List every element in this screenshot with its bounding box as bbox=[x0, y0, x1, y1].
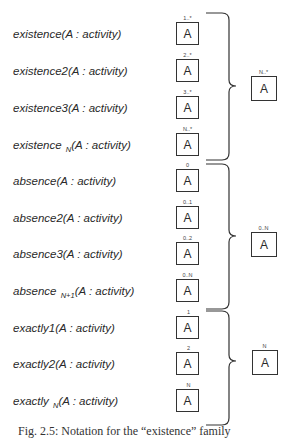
activity-box-absenceN1: A bbox=[176, 279, 199, 302]
cardinality-exactly1: 1 bbox=[176, 309, 201, 315]
cardinality-existenceN: N..* bbox=[175, 126, 200, 132]
cardinality-exactly-family: N bbox=[252, 343, 277, 349]
cardinality-existence2: 2..* bbox=[175, 52, 200, 58]
group-box-absence-family: A bbox=[251, 232, 277, 257]
activity-box-absence3: A bbox=[176, 242, 199, 265]
label-existenceN: existence N(A : activity) bbox=[13, 138, 131, 157]
activity-box-existence3: A bbox=[176, 96, 199, 119]
label-existence: existence(A : activity) bbox=[13, 27, 121, 41]
label-main: exactly bbox=[13, 395, 52, 407]
label-rest: (A : activity) bbox=[75, 285, 135, 297]
cardinality-absenceN1: 0..N bbox=[175, 272, 200, 278]
cardinality-exactly2: 2 bbox=[176, 345, 201, 351]
cardinality-existence-family: N..* bbox=[251, 69, 276, 75]
cardinality-existence3: 3..* bbox=[175, 89, 200, 95]
activity-box-exactlyN: A bbox=[176, 389, 199, 412]
activity-box-existence: A bbox=[176, 22, 199, 45]
activity-box-absence2: A bbox=[176, 206, 199, 229]
label-rest: (A : activity) bbox=[71, 139, 131, 151]
cardinality-absence2: 0..1 bbox=[175, 199, 200, 205]
label-exactly1: exactly1(A : activity) bbox=[13, 321, 115, 335]
cardinality-exactlyN: N bbox=[176, 382, 201, 388]
label-rest: (A : activity) bbox=[58, 395, 118, 407]
label-absence2: absence2(A : activity) bbox=[13, 211, 123, 225]
label-exactly2: exactly2(A : activity) bbox=[13, 357, 115, 371]
label-main: absence bbox=[13, 285, 60, 297]
absence-brace bbox=[206, 164, 236, 309]
activity-box-existence2: A bbox=[176, 59, 199, 82]
label-existence2: existence2(A : activity) bbox=[13, 64, 128, 78]
group-box-exactly-family: A bbox=[252, 350, 278, 375]
label-main: existence bbox=[13, 139, 65, 151]
cardinality-absence-family: 0..N bbox=[251, 225, 276, 231]
label-existence3: existence3(A : activity) bbox=[13, 101, 128, 115]
exactly-brace bbox=[206, 311, 236, 425]
label-absenceN1: absence N+1(A : activity) bbox=[13, 284, 134, 303]
activity-box-exactly2: A bbox=[176, 352, 199, 375]
activity-box-absence: A bbox=[176, 169, 199, 192]
label-absence3: absence3(A : activity) bbox=[13, 247, 123, 261]
label-subscript: N+1 bbox=[61, 291, 75, 300]
group-box-existence-family: A bbox=[251, 76, 277, 101]
label-absence: absence(A : activity) bbox=[13, 174, 116, 188]
activity-box-exactly1: A bbox=[176, 316, 199, 339]
label-exactlyN: exactly N(A : activity) bbox=[13, 394, 118, 413]
cardinality-existence: 1..* bbox=[175, 15, 200, 21]
activity-box-existenceN: A bbox=[176, 133, 199, 156]
existence-brace bbox=[206, 13, 236, 160]
cardinality-absence3: 0..2 bbox=[175, 235, 200, 241]
cardinality-absence: 0 bbox=[175, 162, 200, 168]
figure-caption: Fig. 2.5: Notation for the “existence” f… bbox=[18, 424, 231, 439]
